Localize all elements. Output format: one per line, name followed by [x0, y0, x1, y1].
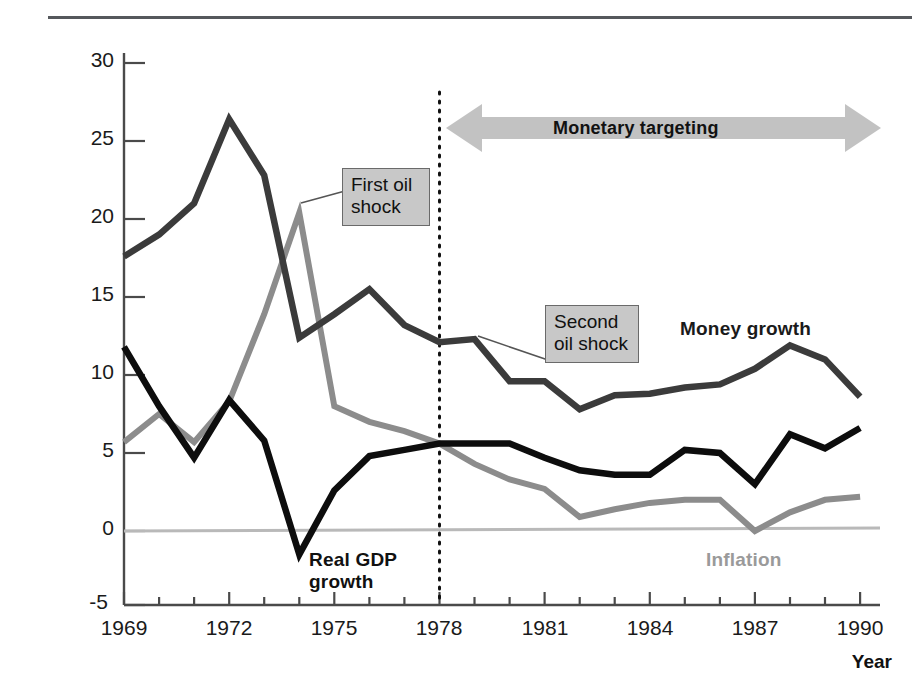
callout-first-oil-shock-line2: shock — [351, 196, 421, 218]
y-tick-label-15: 15 — [68, 282, 114, 306]
series-label-inflation-line1: Inflation — [706, 549, 782, 571]
series-label-inflation: Inflation — [706, 549, 782, 571]
callout-second-oil-shock-line1: Second — [554, 311, 630, 333]
series-label-money-growth-line1: Money growth — [680, 318, 811, 340]
y-tick-label-20: 20 — [68, 204, 114, 228]
callout-second-oil-shock: Second oil shock — [545, 305, 639, 363]
y-tick-label-10: 10 — [68, 360, 114, 384]
y-tick-label-5: 5 — [68, 438, 114, 462]
x-axis-title: Year — [852, 651, 892, 673]
callout-first-oil-shock: First oil shock — [342, 168, 430, 226]
x-tick-label-1981: 1981 — [505, 616, 585, 640]
chart-canvas — [0, 0, 912, 682]
first-oil-shock-leader-line — [301, 191, 345, 203]
x-tick-label-1969: 1969 — [84, 616, 164, 640]
series-label-money-growth: Money growth — [680, 318, 811, 340]
x-tick-label-1978: 1978 — [399, 616, 479, 640]
zero-reference-line — [124, 528, 880, 531]
figure-money-gdp-inflation: Money, real GDP, and price level (annual… — [0, 0, 912, 682]
y-tick-label-0: 0 — [68, 516, 114, 540]
callout-second-oil-shock-line2: oil shock — [554, 333, 630, 355]
y-axis-ticks — [124, 63, 145, 605]
monetary-targeting-label: Monetary targeting — [553, 118, 719, 139]
series-label-real-gdp-growth-line2: growth — [309, 571, 397, 593]
x-tick-label-1972: 1972 — [189, 616, 269, 640]
y-tick-label-minus5: -5 — [62, 590, 108, 614]
x-tick-label-1975: 1975 — [294, 616, 374, 640]
x-axis-ticks — [124, 592, 860, 605]
y-tick-label-30: 30 — [68, 48, 114, 72]
series-label-real-gdp-growth: Real GDP growth — [309, 549, 397, 593]
series-line-money-growth — [124, 119, 860, 409]
x-tick-label-1984: 1984 — [610, 616, 690, 640]
callout-first-oil-shock-line1: First oil — [351, 174, 421, 196]
x-tick-label-1987: 1987 — [715, 616, 795, 640]
series-label-real-gdp-growth-line1: Real GDP — [309, 549, 397, 571]
y-tick-label-25: 25 — [68, 126, 114, 150]
x-tick-label-1990: 1990 — [820, 616, 900, 640]
